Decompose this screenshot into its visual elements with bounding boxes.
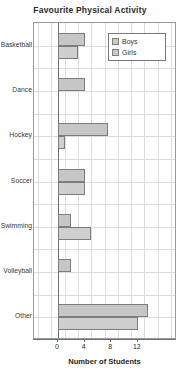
- gridline-horizontal: [34, 204, 175, 205]
- x-tick: [57, 339, 58, 342]
- bar-boys-hockey: [58, 123, 108, 136]
- gridline-vertical: [91, 23, 92, 338]
- legend-label-girls: Girls: [122, 49, 136, 56]
- category-label-dance: Dance: [12, 86, 32, 93]
- gridline-horizontal: [34, 182, 175, 183]
- bar-chart: Favourite Physical Activity BasketballDa…: [0, 0, 180, 384]
- gridline-horizontal: [34, 68, 175, 69]
- gridline-vertical: [118, 23, 119, 338]
- x-axis-line: [33, 339, 176, 340]
- x-axis-title: Number of Students: [33, 357, 176, 366]
- legend-label-boys: Boys: [122, 38, 138, 45]
- bar-boys-soccer: [58, 169, 85, 182]
- category-label-swimming: Swimming: [1, 222, 32, 229]
- gridline-vertical: [171, 23, 172, 338]
- gridline-vertical: [131, 23, 132, 338]
- category-axis-labels: BasketballDanceHockeySoccerSwimmingVolle…: [0, 22, 32, 339]
- gridline-vertical: [38, 23, 39, 338]
- bar-boys-dance: [58, 78, 85, 91]
- bar-boys-basketball: [58, 33, 85, 46]
- category-label-volleyball: Volleyball: [3, 267, 32, 274]
- x-tick: [137, 339, 138, 342]
- category-label-basketball: Basketball: [1, 41, 32, 48]
- bar-girls-hockey: [58, 136, 65, 149]
- x-tick-label: 0: [55, 343, 59, 350]
- x-tick-label: 12: [133, 343, 141, 350]
- bar-girls-basketball: [58, 46, 78, 59]
- legend-item-girls: Girls: [112, 47, 162, 58]
- legend-swatch-girls-icon: [112, 49, 119, 56]
- x-tick: [110, 339, 111, 342]
- bar-boys-volleyball: [58, 259, 71, 272]
- legend-swatch-boys-icon: [112, 38, 119, 45]
- x-tick-label: 4: [82, 343, 86, 350]
- category-label-other: Other: [15, 312, 32, 319]
- bar-girls-other: [58, 317, 138, 330]
- plot-area: [33, 22, 176, 339]
- gridline-horizontal: [34, 295, 175, 296]
- x-tick-label: 8: [108, 343, 112, 350]
- gridline-vertical: [51, 23, 52, 338]
- gridline-horizontal: [34, 227, 175, 228]
- category-label-hockey: Hockey: [9, 131, 32, 138]
- category-label-soccer: Soccer: [11, 177, 32, 184]
- bar-boys-other: [58, 304, 148, 317]
- bar-girls-swimming: [58, 227, 91, 240]
- bar-girls-soccer: [58, 182, 85, 195]
- chart-title: Favourite Physical Activity: [0, 5, 180, 15]
- x-tick: [84, 339, 85, 342]
- gridline-horizontal: [34, 159, 175, 160]
- gridline-horizontal: [34, 272, 175, 273]
- legend-item-boys: Boys: [112, 36, 162, 47]
- legend: Boys Girls: [108, 33, 166, 61]
- gridline-horizontal: [34, 91, 175, 92]
- gridlines: [34, 23, 175, 338]
- gridline-vertical: [158, 23, 159, 338]
- gridline-vertical: [144, 23, 145, 338]
- gridline-horizontal: [34, 136, 175, 137]
- bar-boys-swimming: [58, 214, 71, 227]
- gridline-horizontal: [34, 114, 175, 115]
- gridline-horizontal: [34, 249, 175, 250]
- gridline-vertical: [105, 23, 106, 338]
